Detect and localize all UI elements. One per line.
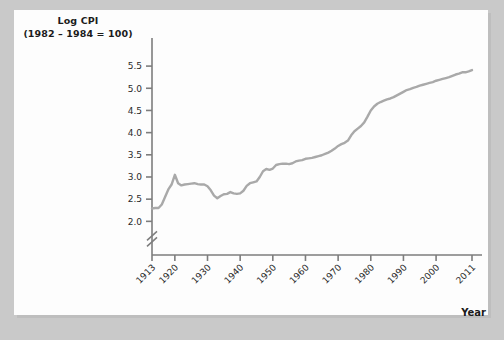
x-axis-tick-label: 1930: [190, 262, 213, 285]
x-axis-tick-label: 1970: [320, 262, 343, 285]
x-axis-tick-label: 2000: [418, 262, 441, 285]
x-axis-tick-label: 2011: [454, 262, 477, 285]
x-axis-tick-label: 1980: [353, 262, 376, 285]
y-axis-tick-label: 5.5: [128, 61, 142, 71]
y-axis-tick-label: 2.5: [128, 194, 142, 204]
x-axis-tick-label: 1960: [288, 262, 311, 285]
chart-plot: 2.02.53.03.54.04.55.05.51913192019301940…: [14, 10, 488, 315]
x-axis-label: Year: [461, 307, 486, 318]
x-axis-tick-label: 1940: [222, 262, 245, 285]
x-axis-tick-label: 1990: [386, 262, 409, 285]
y-axis-tick-label: 4.5: [128, 106, 142, 116]
x-axis-tick-label: 1913: [134, 262, 157, 285]
x-axis-tick-label: 1920: [157, 262, 180, 285]
y-axis-tick-label: 3.0: [128, 172, 143, 182]
figure-root: Log CPI (1982 – 1984 = 100) 2.02.53.03.5…: [0, 0, 504, 340]
y-axis-tick-label: 3.5: [128, 150, 142, 160]
data-line-log-cpi: [152, 70, 472, 208]
y-axis-tick-label: 5.0: [128, 84, 143, 94]
y-axis-tick-label: 4.0: [128, 128, 143, 138]
x-axis-tick-label: 1950: [255, 262, 278, 285]
y-axis-tick-label: 2.0: [128, 217, 143, 227]
